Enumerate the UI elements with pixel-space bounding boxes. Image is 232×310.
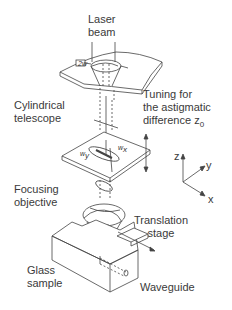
- glass-sample-label: Glass sample: [27, 264, 62, 290]
- cylindrical-telescope-label: Cylindrical telescope: [14, 99, 65, 125]
- two-w-symbol: 2w: [78, 60, 87, 67]
- cylindrical-line1: Cylindrical: [14, 99, 65, 112]
- x-axis-label: x: [208, 193, 214, 205]
- tuning-label: Tuning for the astigmatic difference z0: [143, 88, 211, 131]
- laser-beam-label: Laser beam: [88, 13, 116, 39]
- coordinate-axes: [181, 154, 205, 196]
- laser-beam-line1: Laser: [88, 13, 116, 26]
- wy-symbol: wy: [80, 150, 89, 160]
- translation-line2: stage: [134, 227, 188, 240]
- cylindrical-line2: telescope: [14, 112, 65, 125]
- laser-beam-line2: beam: [88, 26, 116, 39]
- glass-sample: [52, 220, 138, 292]
- wx-symbol: wx: [118, 144, 127, 154]
- tuning-line2: the astigmatic: [143, 101, 211, 114]
- z-axis-label: z: [174, 150, 180, 162]
- translation-line1: Translation: [134, 214, 188, 227]
- focusing-objective-label: Focusing objective: [14, 183, 59, 209]
- tuning-line1: Tuning for: [143, 88, 211, 101]
- focusing-line2: objective: [14, 196, 59, 209]
- focusing-line1: Focusing: [14, 183, 59, 196]
- glass-line1: Glass: [27, 264, 62, 277]
- glass-line2: sample: [27, 277, 62, 290]
- waveguide-label: Waveguide: [140, 281, 195, 294]
- middle-lens-plate: [62, 132, 150, 182]
- y-axis-label: y: [206, 159, 212, 171]
- tuning-line3: difference z0: [143, 114, 211, 131]
- translation-stage-label: Translation stage: [134, 214, 188, 240]
